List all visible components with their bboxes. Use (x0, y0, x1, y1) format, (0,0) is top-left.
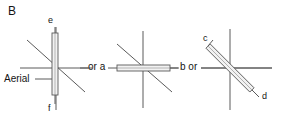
panel-label: B (8, 5, 16, 17)
label-d: d (262, 92, 267, 101)
label-f: f (48, 104, 51, 113)
label-connector-b-or: b or (180, 62, 197, 72)
leader-d (252, 90, 259, 97)
label-c: c (203, 34, 208, 43)
label-e: e (48, 16, 53, 25)
diagram-horizontal-aerial (117, 31, 179, 108)
aerial-orientation-figure (0, 0, 281, 127)
label-aerial: Aerial (4, 74, 30, 84)
label-connector-or-a: or a (88, 62, 105, 72)
